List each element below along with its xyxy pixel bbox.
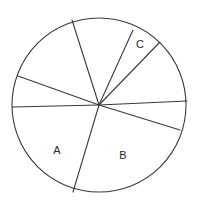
radius-bottom xyxy=(73,105,99,192)
radius-top-left xyxy=(72,20,99,105)
radius-right xyxy=(99,101,187,105)
radius-right-lower xyxy=(99,105,180,130)
radius-left-upper xyxy=(18,76,99,105)
sector-label-a: A xyxy=(53,145,61,156)
pie-chart-svg xyxy=(0,0,198,205)
radius-left xyxy=(12,105,99,107)
pie-sector-diagram: A B C xyxy=(0,0,198,205)
radius-right-upper xyxy=(99,42,160,105)
sector-label-b: B xyxy=(119,150,127,161)
radius-top-right xyxy=(99,30,133,105)
sector-label-c: C xyxy=(136,39,144,50)
